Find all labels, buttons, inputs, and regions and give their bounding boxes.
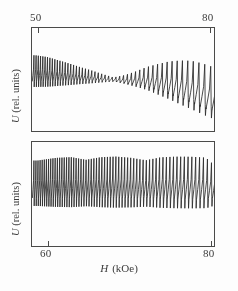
trace-top <box>32 28 214 131</box>
top-axis-tick-mark-80 <box>210 28 211 33</box>
top-axis-tick-mark-50 <box>38 28 39 33</box>
x-axis-label: H(kOe) <box>0 262 238 274</box>
bottom-axis-tick-label-60: 60 <box>40 247 52 259</box>
plot-panel-bottom <box>31 141 215 247</box>
figure-quantum-oscillations: 50 80 60 80 U (rel. units) U (rel. units… <box>0 0 238 291</box>
plot-panel-top <box>31 27 215 132</box>
bottom-axis-tick-mark-60 <box>48 241 49 246</box>
y-axis-label-bottom: U (rel. units) <box>10 182 21 236</box>
x-axis-label-unit: (kOe) <box>112 262 138 274</box>
trace-bottom <box>32 142 214 246</box>
x-axis-label-symbol: H <box>100 262 112 274</box>
top-axis-tick-label-50: 50 <box>30 11 42 23</box>
top-axis-tick-label-80: 80 <box>202 11 214 23</box>
bottom-axis-tick-label-80: 80 <box>203 247 215 259</box>
bottom-axis-tick-mark-80 <box>211 241 212 246</box>
y-axis-label-top: U (rel. units) <box>10 69 21 123</box>
